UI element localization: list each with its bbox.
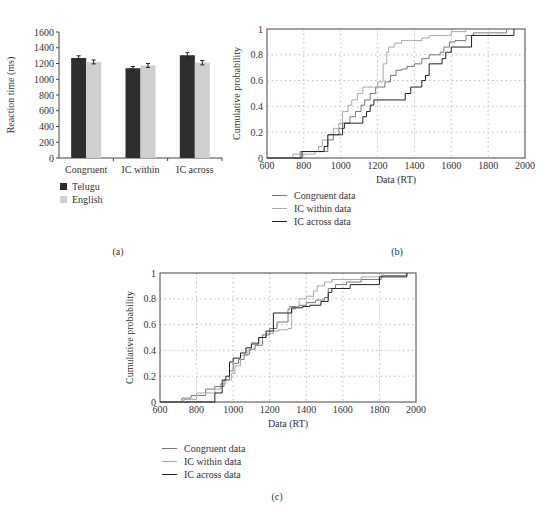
bar [195, 63, 210, 158]
y-tick-label: 600 [39, 105, 54, 116]
y-tick-label: 0 [151, 397, 156, 408]
x-tick-label: 2000 [406, 404, 426, 415]
x-tick-label: IC across [176, 164, 214, 175]
bar [180, 55, 195, 158]
y-tick-label: 0.4 [144, 345, 157, 356]
y-tick-label: 400 [39, 121, 54, 132]
y-tick-label: 1000 [34, 74, 54, 85]
x-tick-label: 1200 [368, 160, 388, 171]
y-tick-label: 0.8 [251, 49, 264, 60]
y-tick-label: 0.4 [251, 101, 264, 112]
x-tick-label: 1400 [296, 404, 316, 415]
y-tick-label: 0 [49, 153, 54, 164]
bar [126, 68, 141, 158]
y-axis-label: Cumulative probability [231, 47, 242, 140]
y-tick-label: 0.2 [251, 127, 264, 138]
y-axis-label: Cumulative probability [124, 291, 135, 384]
legend-label: Congruent data [184, 443, 246, 454]
legend-swatch [60, 183, 67, 190]
x-tick-label: 1400 [404, 160, 424, 171]
legend-label: IC across data [294, 216, 351, 227]
caption-c: (c) [271, 491, 282, 503]
y-tick-label: 200 [39, 137, 54, 148]
cdf-line [267, 29, 466, 158]
y-tick-label: 1600 [34, 27, 54, 38]
x-tick-label: 1600 [333, 404, 353, 415]
x-tick-label: 800 [296, 160, 311, 171]
bar [71, 58, 86, 158]
legend-label: IC within data [184, 456, 242, 467]
x-tick-label: 1600 [441, 160, 461, 171]
y-tick-label: 1 [258, 24, 263, 35]
x-axis-label: Data (RT) [376, 174, 416, 186]
cdf-line [160, 273, 383, 402]
y-tick-label: 1400 [34, 42, 54, 53]
bar [141, 65, 156, 158]
caption-a: (a) [112, 246, 123, 258]
y-tick-label: 800 [39, 90, 54, 101]
cdf-chart-panel-b: 60080010001200140016001800200000.20.40.6… [231, 24, 535, 228]
y-tick-label: 0.6 [251, 75, 264, 86]
legend-label: IC within data [294, 203, 352, 214]
bar [86, 62, 101, 158]
y-tick-label: 0 [258, 153, 263, 164]
x-tick-label: 1200 [260, 404, 280, 415]
y-tick-label: 0.6 [144, 319, 157, 330]
y-tick-label: 1200 [34, 58, 54, 69]
legend-label: English [72, 194, 103, 205]
figure: 02004006008001000120014001600Reaction ti… [0, 0, 555, 515]
legend-swatch [60, 196, 67, 203]
caption-b: (b) [391, 246, 403, 258]
legend-label: IC across data [184, 469, 241, 480]
x-tick-label: 2000 [515, 160, 535, 171]
plot-frame [160, 273, 416, 402]
bar-chart-panel-a: 02004006008001000120014001600Reaction ti… [5, 27, 222, 206]
y-tick-label: 0.2 [144, 371, 157, 382]
cdf-chart-panel-c: 60080010001200140016001800200000.20.40.6… [124, 268, 426, 481]
plot-frame [267, 29, 525, 158]
x-tick-label: 1000 [223, 404, 243, 415]
x-tick-label: 1800 [369, 404, 389, 415]
y-tick-label: 1 [151, 268, 156, 279]
x-tick-label: 1800 [478, 160, 498, 171]
x-tick-label: IC within [121, 164, 159, 175]
y-tick-label: 0.8 [144, 293, 157, 304]
x-tick-label: 1000 [331, 160, 351, 171]
x-tick-label: Congruent [65, 164, 107, 175]
legend-label: Congruent data [294, 190, 356, 201]
y-axis-label: Reaction time (ms) [5, 57, 17, 134]
x-axis-label: Data (RT) [268, 418, 308, 430]
legend-label: Telugu [72, 181, 100, 192]
x-tick-label: 800 [189, 404, 204, 415]
cdf-line [267, 29, 507, 158]
